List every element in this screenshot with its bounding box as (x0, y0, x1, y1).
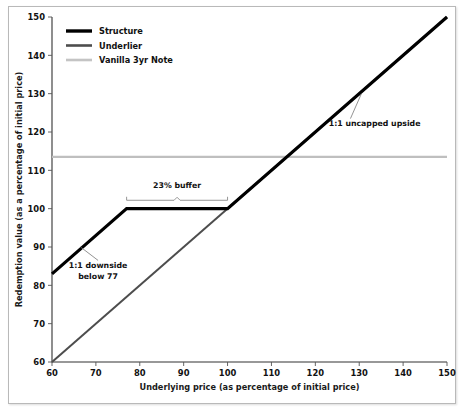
x-tick-label: 120 (307, 368, 325, 378)
x-axis-title: Underlying price (as percentage of initi… (140, 382, 360, 392)
y-tick-label: 150 (28, 12, 46, 22)
annotation-downside-leader (81, 247, 99, 260)
y-tick-label: 90 (33, 242, 45, 252)
annotation-downside-line1: 1:1 downside (69, 261, 128, 270)
x-tick-label: 70 (90, 368, 102, 378)
x-tick-label: 60 (46, 368, 58, 378)
y-tick-label: 140 (28, 51, 46, 61)
plot-wrapper: 6070809010011012013014015060708090100110… (0, 0, 465, 416)
x-tick-label: 100 (219, 368, 237, 378)
y-tick-label: 80 (33, 281, 45, 291)
y-tick-label: 100 (28, 204, 46, 214)
y-tick-label: 130 (28, 89, 46, 99)
annotation-upside-label: 1:1 uncapped upside (329, 119, 421, 128)
chart-figure: 6070809010011012013014015060708090100110… (0, 0, 465, 416)
y-tick-label: 60 (33, 357, 45, 367)
annotation-buffer-label: 23% buffer (153, 181, 201, 190)
legend-label-2: Vanilla 3yr Note (99, 55, 173, 65)
y-tick-label: 120 (28, 127, 46, 137)
y-tick-label: 110 (28, 166, 46, 176)
y-axis-title: Redemption value (as a percentage of ini… (14, 71, 24, 307)
buffer-brace (127, 197, 228, 201)
legend-label-0: Structure (99, 26, 143, 36)
y-tick-label: 70 (33, 319, 45, 329)
x-tick-label: 130 (350, 368, 368, 378)
annotation-downside-line2: below 77 (78, 272, 118, 281)
x-tick-label: 140 (394, 368, 412, 378)
x-tick-label: 90 (178, 368, 190, 378)
line-chart-svg: 6070809010011012013014015060708090100110… (0, 0, 465, 416)
x-tick-label: 150 (438, 368, 456, 378)
x-tick-label: 80 (134, 368, 146, 378)
legend-label-1: Underlier (99, 41, 143, 51)
x-tick-label: 110 (263, 368, 281, 378)
